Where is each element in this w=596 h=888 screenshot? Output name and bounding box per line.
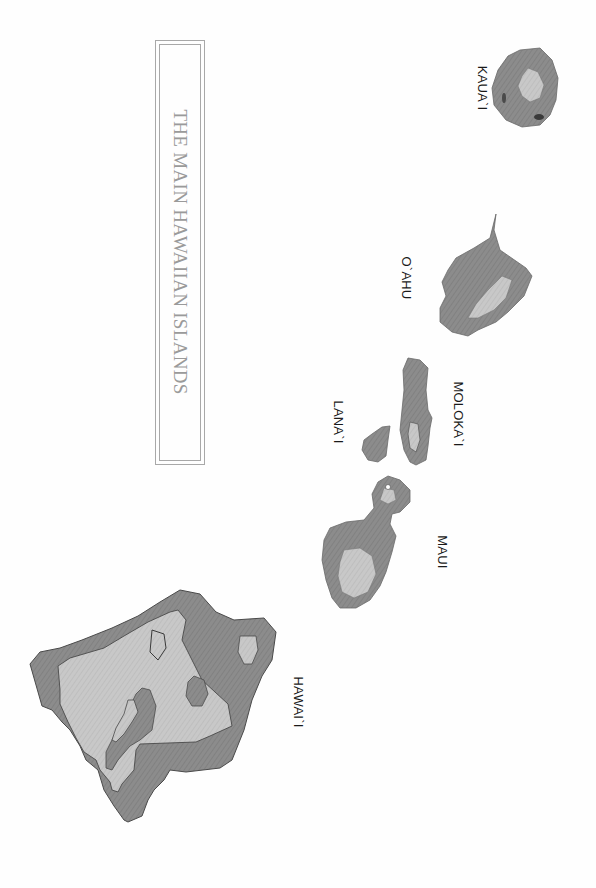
label-maui: MAUI	[435, 535, 450, 568]
label-hawaii: HAWAI`I	[291, 677, 306, 728]
label-oahu: O`AHU	[399, 257, 414, 300]
island-oahu	[440, 214, 532, 336]
island-maui	[322, 476, 410, 608]
label-molokai: MOLOKA`I	[451, 381, 466, 446]
map-page: THE MAIN HAWAIIAN ISLANDS KAUA`I O`AHU M…	[0, 0, 596, 888]
label-kauai: KAUA`I	[475, 66, 490, 111]
island-molokai	[400, 358, 432, 465]
label-lanai: LANA`I	[331, 400, 346, 443]
island-lanai	[362, 426, 390, 462]
map-title: THE MAIN HAWAIIAN ISLANDS	[169, 109, 191, 394]
island-map	[0, 0, 596, 888]
island-hawaii	[30, 590, 276, 822]
island-kauai	[492, 48, 558, 127]
